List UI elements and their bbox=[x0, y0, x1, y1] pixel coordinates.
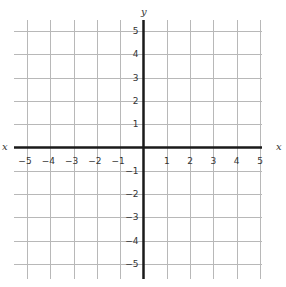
y-tick-label: −3 bbox=[125, 212, 138, 222]
x-tick-label: 2 bbox=[187, 156, 193, 166]
y-tick-label: 1 bbox=[133, 119, 139, 129]
x-tick-label: 5 bbox=[257, 156, 263, 166]
y-axis-label: y bbox=[140, 6, 147, 17]
x-tick-label: −4 bbox=[42, 156, 56, 166]
y-tick-label: −1 bbox=[125, 166, 138, 176]
y-tick-label: 2 bbox=[133, 96, 139, 106]
x-tick-label: −1 bbox=[112, 156, 125, 166]
x-axis-label-left: x bbox=[2, 141, 8, 152]
x-tick-label: 3 bbox=[211, 156, 217, 166]
coordinate-plane: −5−4−3−2−11234554321−1−2−3−4−5 x x y bbox=[0, 0, 286, 287]
x-tick-label: −5 bbox=[18, 156, 31, 166]
x-tick-label: −3 bbox=[65, 156, 78, 166]
y-tick-label: −2 bbox=[125, 189, 138, 199]
x-axis-label-right: x bbox=[276, 141, 282, 152]
y-tick-label: −5 bbox=[125, 259, 138, 269]
x-tick-label: 1 bbox=[164, 156, 170, 166]
x-tick-label: 4 bbox=[234, 156, 240, 166]
y-tick-label: 3 bbox=[133, 73, 139, 83]
x-tick-label: −2 bbox=[88, 156, 101, 166]
y-tick-label: 5 bbox=[133, 26, 139, 36]
y-tick-label: 4 bbox=[133, 49, 139, 59]
y-tick-label: −4 bbox=[125, 236, 139, 246]
